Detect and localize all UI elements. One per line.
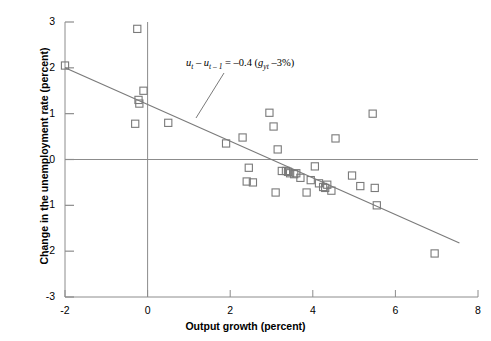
data-point — [266, 109, 273, 116]
data-point — [332, 135, 339, 142]
data-point — [132, 120, 139, 127]
data-point — [311, 163, 318, 170]
eqn-equals: = –0.4 ( — [222, 57, 258, 68]
data-point — [274, 146, 281, 153]
eqn-tail: –3%) — [269, 57, 294, 68]
data-point — [357, 182, 364, 189]
data-point — [245, 164, 252, 171]
regression-equation-annotation: ut – ut – 1 = –0.4 (gyt –3%) — [186, 57, 294, 71]
plot-svg — [0, 0, 491, 341]
scatter-chart-figure: Change in the unemployment rate (percent… — [0, 0, 491, 341]
data-point — [272, 189, 279, 196]
data-point — [140, 87, 147, 94]
data-point — [303, 189, 310, 196]
data-point — [369, 110, 376, 117]
data-point — [371, 184, 378, 191]
plot-area — [0, 0, 491, 341]
data-point — [134, 25, 141, 32]
eqn-minus: – — [193, 57, 204, 68]
data-point — [431, 250, 438, 257]
data-point — [270, 123, 277, 130]
data-point — [348, 172, 355, 179]
data-point — [165, 119, 172, 126]
data-point — [239, 134, 246, 141]
